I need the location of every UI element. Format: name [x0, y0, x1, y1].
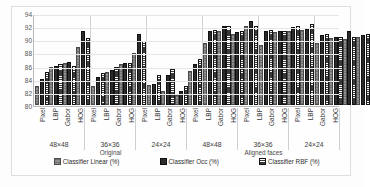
y-axis-tick-label: 82 — [6, 91, 32, 98]
category-label-hog: HOG — [123, 108, 136, 138]
bar-classifier-linear — [175, 95, 179, 106]
bar-classifier-occ — [166, 75, 170, 105]
category-label-text: HOG — [282, 108, 289, 123]
legend-swatch-hatched-gray-icon — [54, 158, 61, 165]
gridline — [34, 81, 339, 82]
legend-label: Classifier Occ (%) — [169, 158, 219, 165]
category-label-gabor: Gabor — [161, 108, 174, 138]
bar-classifier-linear — [343, 39, 347, 105]
resolution-group-labels: 48×4836×3624×2448×4836×3624×24 — [34, 138, 340, 150]
bar-classifier-linear — [76, 47, 80, 105]
category-label-text: HOG — [180, 108, 187, 123]
category-label-gabor: Gabor — [263, 108, 276, 138]
y-axis-tick-label: 80 — [6, 104, 32, 111]
category-label-pixel: Pixel — [136, 108, 149, 138]
category-label-group: PixelLBPGaborHOG — [238, 108, 289, 138]
legend-item[interactable]: Classifier Linear (%) — [54, 158, 119, 165]
y-axis-tick-label: 86 — [6, 65, 32, 72]
bar-classifier-linear — [119, 64, 123, 105]
category-label-text: HOG — [333, 108, 340, 123]
y-axis-tick-label: 94 — [6, 12, 32, 19]
gridline — [34, 41, 339, 42]
category-label-gabor: Gabor — [59, 108, 72, 138]
category-bar-cluster — [343, 15, 357, 105]
bar-classifier-linear — [132, 53, 136, 105]
bar-classifier-occ — [347, 31, 351, 105]
category-label-group: PixelLBPGaborHOG — [136, 108, 187, 138]
bar-classifier-linear — [105, 72, 109, 105]
category-bar-cluster — [356, 15, 370, 105]
y-axis-tick-label: 92 — [6, 25, 32, 32]
legend-label: Classifier Linear (%) — [63, 158, 120, 165]
category-label-pixel: Pixel — [289, 108, 302, 138]
bar-classifier-linear — [49, 67, 53, 105]
category-label-group: PixelLBPGaborHOG — [289, 108, 340, 138]
category-label-group: PixelLBPGaborHOG — [85, 108, 136, 138]
resolution-label: 24×24 — [136, 138, 187, 150]
bar-classifier-linear — [35, 86, 39, 105]
bar-classifier-occ — [40, 79, 44, 105]
bar-classifier-rbf — [366, 34, 370, 105]
bar-classifier-occ — [361, 35, 365, 105]
category-label-lbp: LBP — [200, 108, 213, 138]
category-label-hog: HOG — [174, 108, 187, 138]
bar-classifier-occ — [123, 63, 127, 105]
bar-classifier-linear — [356, 37, 360, 105]
category-label-hog: HOG — [72, 108, 85, 138]
y-axis-tick-label: 84 — [6, 78, 32, 85]
bar-classifier-linear — [203, 43, 207, 105]
bar-classifier-linear — [329, 38, 333, 105]
bar-classifier-occ — [193, 64, 197, 105]
gridline — [34, 28, 339, 29]
category-label-group: PixelLBPGaborHOG — [34, 108, 85, 138]
legend-swatch-solid-black-icon — [160, 158, 167, 165]
category-label-gabor: Gabor — [212, 108, 225, 138]
category-label-lbp: LBP — [149, 108, 162, 138]
y-axis-tick-label: 88 — [6, 51, 32, 58]
bar-classifier-linear — [315, 43, 319, 105]
gridline — [34, 68, 339, 69]
bar-classifier-linear — [91, 86, 95, 105]
resolution-label: 48×48 — [187, 138, 238, 150]
category-label-lbp: LBP — [302, 108, 315, 138]
bar-classifier-occ — [249, 21, 253, 105]
category-label-hog: HOG — [327, 108, 340, 138]
gridline — [34, 15, 339, 16]
bar-classifier-occ — [179, 91, 183, 105]
category-label-lbp: LBP — [98, 108, 111, 138]
category-label-text: HOG — [78, 108, 85, 123]
bar-classifier-occ — [54, 66, 58, 105]
bar-classifier-occ — [334, 37, 338, 105]
y-axis-tick-label: 90 — [6, 38, 32, 45]
category-label-gabor: Gabor — [110, 108, 123, 138]
legend-item[interactable]: Classifier RBF (%) — [259, 158, 319, 165]
bar-classifier-rbf — [310, 24, 314, 105]
category-label-group: PixelLBPGaborHOG — [187, 108, 238, 138]
bar-classifier-occ — [110, 70, 114, 105]
category-label-lbp: LBP — [251, 108, 264, 138]
legend-swatch-dotted-dark-icon — [259, 158, 266, 165]
category-label-gabor: Gabor — [314, 108, 327, 138]
category-label-pixel: Pixel — [85, 108, 98, 138]
bar-classifier-rbf — [198, 59, 202, 105]
category-label-hog: HOG — [225, 108, 238, 138]
plot-area-wrapper: 9492908886848280 — [33, 15, 339, 107]
resolution-label: 48×48 — [34, 138, 85, 150]
category-label-text: HOG — [129, 108, 136, 123]
bar-classifier-linear — [63, 63, 67, 105]
category-label-pixel: Pixel — [238, 108, 251, 138]
category-label-pixel: Pixel — [187, 108, 200, 138]
gridline — [34, 54, 339, 55]
legend-label: Classifier RBF (%) — [268, 158, 320, 165]
bar-classifier-linear — [188, 71, 192, 105]
resolution-label: 24×24 — [289, 138, 340, 150]
category-label-hog: HOG — [276, 108, 289, 138]
category-label-pixel: Pixel — [34, 108, 47, 138]
category-label-lbp: LBP — [47, 108, 60, 138]
legend-item[interactable]: Classifier Occ (%) — [160, 158, 219, 165]
bar-classifier-rbf — [86, 38, 90, 105]
bar-classifier-rbf — [142, 41, 146, 105]
chart-legend: Classifier Linear (%)Classifier Occ (%)C… — [34, 155, 340, 167]
gridline — [34, 94, 339, 95]
